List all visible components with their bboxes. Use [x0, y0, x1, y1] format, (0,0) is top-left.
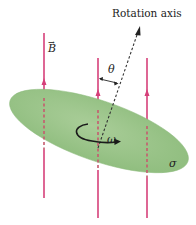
theta-angle-marker: [99, 77, 119, 86]
omega-label: ω: [107, 133, 116, 146]
diagram-canvas: [0, 0, 196, 225]
field-line-3: [145, 58, 150, 126]
field-line-1: [42, 33, 47, 98]
magnetic-field-label: → B: [48, 42, 56, 55]
axis-arrowhead-icon: [135, 26, 141, 36]
arrowhead-up-icon: [42, 78, 47, 85]
theta-label: θ: [108, 63, 115, 76]
rotation-axis-label: Rotation axis: [112, 7, 182, 19]
vector-arrow-icon: →: [48, 38, 55, 47]
arrowhead-up-icon: [96, 89, 101, 96]
rotating-charged-disk-diagram: Rotation axis → B θ ω σ: [0, 0, 196, 225]
arrowhead-left-icon: [99, 77, 103, 81]
arrowhead-right-icon: [114, 82, 119, 86]
sigma-label: σ: [169, 157, 177, 170]
arrowhead-up-icon: [145, 89, 150, 96]
